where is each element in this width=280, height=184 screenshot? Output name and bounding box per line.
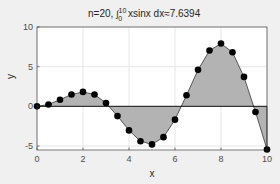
y-axis-label: y (5, 74, 16, 79)
data-point (91, 91, 98, 98)
data-point (183, 92, 190, 99)
data-point (241, 74, 248, 81)
data-point (45, 101, 52, 108)
data-point (149, 141, 156, 148)
data-point (195, 67, 202, 74)
data-point (172, 116, 179, 123)
data-point (103, 100, 110, 107)
data-point (206, 47, 213, 54)
data-point (126, 127, 133, 134)
trapezoid-area-chart: 0246810-50510xyn=20, ∫100 xsinx dx≈7.639… (0, 0, 280, 184)
x-tick-label: 0 (34, 154, 39, 164)
x-axis-label: x (150, 168, 155, 179)
data-point (252, 109, 259, 116)
data-point (68, 91, 75, 98)
data-point (114, 113, 121, 120)
data-point (137, 138, 144, 145)
x-tick-label: 8 (218, 154, 223, 164)
data-point (57, 96, 64, 103)
data-point (160, 134, 167, 141)
x-tick-label: 2 (80, 154, 85, 164)
y-tick-label: 0 (28, 101, 33, 111)
y-tick-label: 5 (28, 62, 33, 72)
x-tick-label: 10 (262, 154, 272, 164)
x-tick-label: 6 (172, 154, 177, 164)
x-tick-label: 4 (126, 154, 131, 164)
chart-title: n=20, ∫100 xsinx dx≈7.6394 (88, 7, 201, 22)
figure: 0246810-50510xyn=20, ∫100 xsinx dx≈7.639… (0, 0, 280, 184)
y-tick-label: 10 (23, 22, 33, 32)
data-point (218, 40, 225, 47)
data-point (80, 89, 87, 96)
data-point (229, 49, 236, 56)
y-tick-label: -5 (25, 141, 33, 151)
